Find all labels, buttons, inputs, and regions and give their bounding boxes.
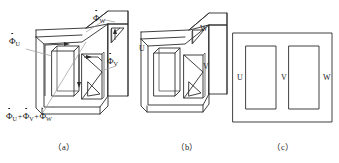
flux-arrow-v <box>84 55 102 61</box>
flux-arrow-down <box>77 54 81 88</box>
label-flux-w: ΦW <box>93 14 106 24</box>
panel-b-drawing <box>137 8 237 128</box>
limb-label-b-w: W <box>200 24 208 33</box>
limb-label-b-v: V <box>203 62 209 71</box>
limb-label-c-u: U <box>237 73 243 82</box>
label-flux-sum: ΦU+ΦV+ΦW <box>6 112 52 122</box>
caption-c: （c） <box>259 140 307 152</box>
leader-phi-u <box>26 49 52 56</box>
limb-label-b-u: U <box>139 44 145 53</box>
label-flux-u: ΦU <box>9 37 20 47</box>
caption-b: （b） <box>163 140 211 152</box>
caption-a: （a） <box>40 140 88 152</box>
flux-arrow-u <box>45 42 70 96</box>
label-flux-v: ΦV <box>107 57 118 67</box>
panel-a-drawing <box>12 4 137 128</box>
limb-label-c-v: V <box>281 73 287 82</box>
figure-canvas: ΦU ΦW ΦV ΦU+ΦV+ΦW <box>0 0 339 163</box>
limb-label-c-w: W <box>323 73 331 82</box>
